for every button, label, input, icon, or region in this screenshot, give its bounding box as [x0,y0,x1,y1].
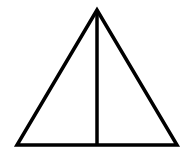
triangle-diagram [0,0,184,155]
